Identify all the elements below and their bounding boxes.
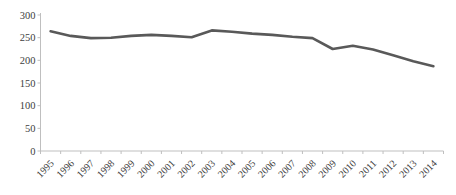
x-tick-label: 2004 <box>215 158 237 180</box>
x-tick-label: 2013 <box>397 158 419 180</box>
x-tick-label: 2003 <box>195 158 217 180</box>
x-tick-label: 2005 <box>236 158 258 180</box>
y-tick-label: 150 <box>20 78 36 89</box>
x-tick-label: 1996 <box>54 158 76 180</box>
x-tick-label: 2014 <box>417 158 439 180</box>
x-tick-label: 1998 <box>95 158 117 180</box>
x-tick-label: 1997 <box>74 158 96 180</box>
y-tick-label: 0 <box>30 146 35 157</box>
y-tick-label: 300 <box>20 10 36 21</box>
x-tick-label: 2001 <box>155 158 177 180</box>
x-tick-label: 2002 <box>175 158 197 180</box>
x-tick-label: 2010 <box>336 158 358 180</box>
y-tick-label: 250 <box>20 32 36 43</box>
y-tick-label: 100 <box>20 100 36 111</box>
x-tick-label: 1999 <box>115 158 137 180</box>
x-tick-label: 2011 <box>357 158 379 180</box>
y-tick-label: 50 <box>25 123 36 134</box>
x-tick-label: 2006 <box>256 158 278 180</box>
x-tick-label: 2012 <box>377 158 399 180</box>
data-line <box>51 30 434 66</box>
x-tick-label: 2000 <box>135 158 157 180</box>
x-tick-label: 2009 <box>316 158 338 180</box>
line-chart-figure: 0501001502002503001995199619971998199920… <box>0 0 456 195</box>
y-tick-label: 200 <box>20 55 36 66</box>
x-tick-label: 2008 <box>296 158 318 180</box>
x-tick-label: 1995 <box>34 158 56 180</box>
line-chart: 0501001502002503001995199619971998199920… <box>0 0 456 195</box>
x-tick-label: 2007 <box>276 158 298 180</box>
